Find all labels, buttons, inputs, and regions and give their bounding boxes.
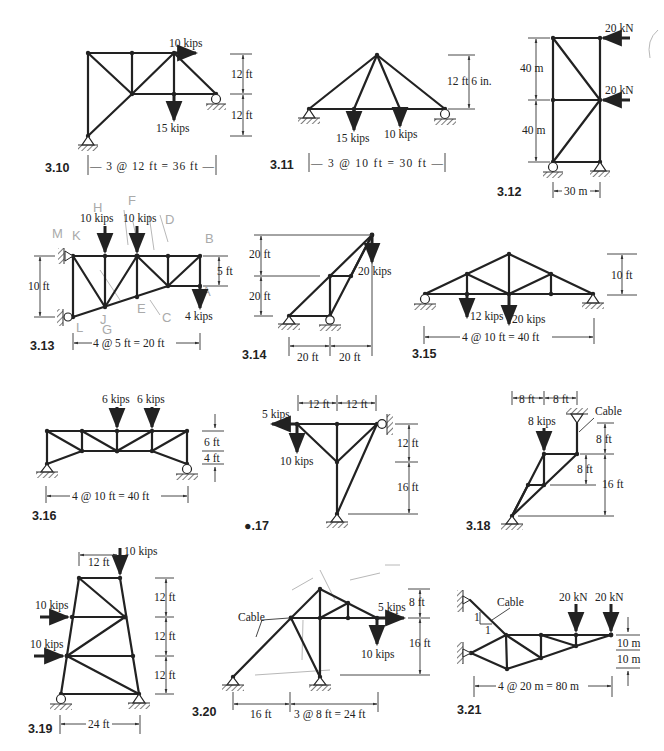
problem-3-15: 12 kips 20 kips 10 ft 4 @ 10 ft = 40 ft … bbox=[412, 252, 637, 361]
pin-support-icon bbox=[582, 294, 604, 309]
problem-number: 3.12 bbox=[497, 185, 521, 199]
load-label: 6 kips bbox=[137, 393, 165, 406]
svg-text:M: M bbox=[52, 226, 63, 241]
dimension-label: 16 ft bbox=[409, 637, 431, 649]
span-label: 4 @ 10 ft = 40 ft bbox=[72, 490, 150, 503]
svg-text:B: B bbox=[205, 231, 214, 246]
wall-pin-support-icon bbox=[457, 642, 471, 664]
problem-number: ●.17 bbox=[244, 519, 269, 533]
problem-number: 3.16 bbox=[32, 509, 56, 523]
load-label: 20 kN bbox=[605, 22, 634, 34]
dimension-label: 12 ft bbox=[397, 437, 419, 449]
problem-3-17: 5 kips 10 kips 12 ft 12 ft 12 ft 16 ft ●… bbox=[244, 395, 419, 533]
problem-number: 3.18 bbox=[466, 519, 490, 533]
load-label: 10 kips bbox=[361, 648, 395, 661]
svg-text:L: L bbox=[76, 320, 83, 335]
load-label: 10 kips bbox=[124, 545, 158, 558]
problem-number: 3.21 bbox=[457, 703, 481, 717]
load-label: 10 kips bbox=[123, 212, 157, 225]
load-label: 15 kips bbox=[336, 132, 370, 145]
load-label: 10 kips bbox=[280, 455, 314, 468]
pin-support-icon bbox=[501, 516, 523, 530]
roller-support-icon bbox=[50, 695, 72, 711]
dimension-label: 8 ft bbox=[519, 393, 535, 405]
problem-3-13: M K H F D B A L J G E C 10 kip bbox=[28, 193, 233, 353]
pin-support-icon bbox=[36, 464, 58, 478]
dimension-label: 12 ft bbox=[231, 68, 253, 80]
load-label: 10 kips bbox=[384, 128, 418, 141]
load-label: 10 kips bbox=[30, 638, 64, 651]
dimension-label: 16 ft bbox=[602, 478, 624, 490]
dimension-label: 16 ft bbox=[397, 481, 419, 493]
load-label: 20 kips bbox=[512, 313, 546, 326]
load-label: 20 kN bbox=[595, 591, 624, 603]
problem-3-18: 8 kips Cable 8 ft 8 ft 8 ft 8 ft 16 ft 3… bbox=[466, 391, 624, 533]
problem-3-11: 15 kips 10 kips 12 ft 6 in. — 3 @ 10 ft … bbox=[270, 53, 492, 172]
span-label: 4 @ 20 m = 80 m bbox=[498, 680, 579, 693]
pin-support-icon bbox=[309, 677, 331, 691]
svg-text:E: E bbox=[137, 301, 146, 316]
load-label: 4 kips bbox=[185, 310, 213, 323]
pin-support-icon bbox=[78, 136, 98, 151]
dimension-label: 20 ft bbox=[249, 290, 271, 302]
svg-text:D: D bbox=[165, 212, 174, 227]
problem-3-20: 5 kips 10 kips Cable 8 ft 16 ft 16 ft 3 … bbox=[192, 565, 431, 721]
roller-support-icon bbox=[176, 465, 198, 481]
load-label: 15 kips bbox=[156, 122, 190, 135]
cable-label: Cable bbox=[238, 611, 265, 623]
pin-support-icon bbox=[222, 677, 244, 691]
wall-roller-support-icon bbox=[378, 414, 393, 435]
problem-3-10: 10 kips 15 kips 12 ft 12 ft — 3 @ 12 ft … bbox=[45, 37, 253, 175]
dimension-label: 16 ft bbox=[250, 708, 272, 720]
problem-3-12: 20 kN 20 kN 40 m 40 m 30 m 3.12 bbox=[497, 22, 634, 199]
dimension-label: 8 ft bbox=[553, 393, 569, 405]
dimension-label: 8 ft bbox=[596, 433, 612, 445]
slope-label: 1 bbox=[474, 611, 480, 623]
dimension-label: 8 ft bbox=[577, 463, 593, 475]
load-label: 8 kips bbox=[528, 415, 556, 428]
span-label: 4 @ 10 ft = 40 ft bbox=[462, 331, 540, 344]
load-label: 10 kips bbox=[80, 212, 114, 225]
dimension-label: 20 ft bbox=[249, 248, 271, 260]
dimension-label: 12 ft bbox=[154, 591, 176, 603]
dimension-label: 5 ft bbox=[217, 265, 233, 277]
svg-text:F: F bbox=[128, 193, 136, 208]
problem-3-14: 20 kips 20 ft 20 ft 20 ft 20 ft 3.14 bbox=[242, 233, 392, 363]
pin-support-icon bbox=[128, 694, 150, 709]
span-label: 30 m bbox=[564, 185, 587, 197]
problem-3-21: 1 1 Cable 20 kN 20 kN 10 m 10 m 4 @ 20 m… bbox=[457, 590, 640, 717]
dimension-label: 12 ft bbox=[88, 556, 110, 568]
problem-number: 3.11 bbox=[270, 158, 294, 172]
page-curve-mark bbox=[649, 30, 658, 58]
pin-support-icon bbox=[326, 514, 348, 528]
roller-support-icon bbox=[319, 316, 341, 331]
dimension-label: 10 m bbox=[617, 653, 640, 665]
cable-label: Cable bbox=[595, 405, 622, 417]
dimension-label: 12 ft bbox=[154, 669, 176, 681]
dimension-label: 12 ft bbox=[308, 398, 330, 410]
problem-number: 3.15 bbox=[412, 347, 436, 361]
dimension-label: 12 ft 6 in. bbox=[447, 75, 492, 87]
load-label: 20 kN bbox=[559, 591, 588, 603]
dimension-label: 12 ft bbox=[154, 630, 176, 642]
dimension-label: 10 ft bbox=[28, 280, 50, 292]
load-label: 10 kips bbox=[35, 599, 69, 612]
roller-support-icon bbox=[414, 295, 436, 311]
truss-problems-page: 10 kips 15 kips 12 ft 12 ft — 3 @ 12 ft … bbox=[0, 0, 664, 751]
slope-triangle bbox=[480, 612, 492, 624]
slope-label: 1 bbox=[485, 624, 491, 636]
wall-roller-support-icon bbox=[57, 309, 72, 326]
cable-label: Cable bbox=[497, 596, 524, 608]
problem-number: 3.14 bbox=[242, 348, 266, 362]
roller-support-icon bbox=[206, 95, 226, 111]
pin-support-icon bbox=[590, 162, 610, 177]
load-label: 6 kips bbox=[102, 393, 130, 406]
roller-support-icon bbox=[543, 163, 563, 179]
load-label: 20 kips bbox=[358, 265, 392, 278]
problem-number: 3.20 bbox=[192, 705, 216, 719]
load-label: 20 kN bbox=[605, 84, 634, 96]
dimension-label: 20 ft bbox=[297, 351, 319, 363]
dimension-label: 10 ft bbox=[611, 269, 633, 281]
dimension-label: 4 ft bbox=[204, 452, 220, 464]
pin-support-icon bbox=[298, 109, 320, 124]
